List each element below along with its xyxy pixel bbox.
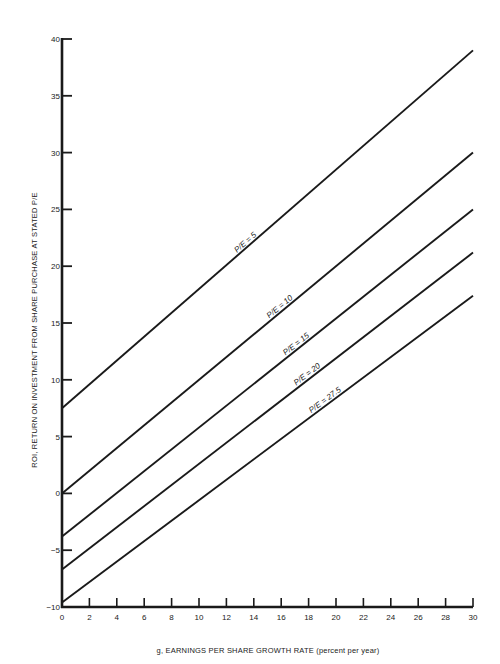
x-tick-label: 20 — [332, 613, 341, 622]
roi-vs-growth-chart: −10−50510152025303540 024681012141618202… — [0, 0, 500, 664]
series-label: P/E = 5 — [232, 230, 258, 255]
y-tick-label: −10 — [46, 603, 60, 612]
series-line — [62, 296, 473, 603]
y-tick-label: 10 — [51, 376, 60, 385]
series-label: P/E = 27.5 — [307, 385, 343, 415]
series-label: P/E = 20 — [292, 361, 322, 387]
x-tick-label: 26 — [414, 613, 423, 622]
x-tick-label: 24 — [386, 613, 395, 622]
y-tick-label: 35 — [51, 92, 60, 101]
x-tick-label: 8 — [169, 613, 174, 622]
series-line — [62, 50, 473, 408]
y-tick-label: 15 — [51, 319, 60, 328]
y-axis-ticks: −10−50510152025303540 — [46, 35, 72, 612]
y-tick-label: 30 — [51, 149, 60, 158]
y-tick-label: 40 — [51, 35, 60, 44]
x-tick-label: 10 — [195, 613, 204, 622]
x-tick-label: 18 — [304, 613, 313, 622]
x-axis-label: g, EARNINGS PER SHARE GROWTH RATE (perce… — [157, 646, 380, 655]
series-label: P/E = 10 — [265, 293, 295, 320]
series-lines — [62, 50, 473, 602]
y-tick-label: 20 — [51, 262, 60, 271]
y-axis-label: ROI, RETURN ON INVESTMENT FROM SHARE PUR… — [30, 192, 39, 467]
series-line — [62, 209, 473, 536]
x-tick-label: 0 — [60, 613, 65, 622]
x-tick-label: 2 — [87, 613, 92, 622]
y-tick-label: −5 — [51, 546, 61, 555]
x-tick-label: 30 — [469, 613, 478, 622]
x-axis-ticks: 024681012141618202224262830 — [60, 598, 478, 622]
x-tick-label: 4 — [115, 613, 120, 622]
x-tick-label: 14 — [249, 613, 258, 622]
x-tick-label: 22 — [359, 613, 368, 622]
x-tick-label: 6 — [142, 613, 147, 622]
series-line — [62, 253, 473, 570]
y-tick-label: 25 — [51, 205, 60, 214]
x-tick-label: 12 — [222, 613, 231, 622]
y-tick-label: 5 — [56, 433, 61, 442]
x-tick-label: 16 — [277, 613, 286, 622]
y-tick-label: 0 — [56, 489, 61, 498]
series-label: P/E = 15 — [281, 331, 311, 358]
x-tick-label: 28 — [441, 613, 450, 622]
series-line — [62, 153, 473, 494]
